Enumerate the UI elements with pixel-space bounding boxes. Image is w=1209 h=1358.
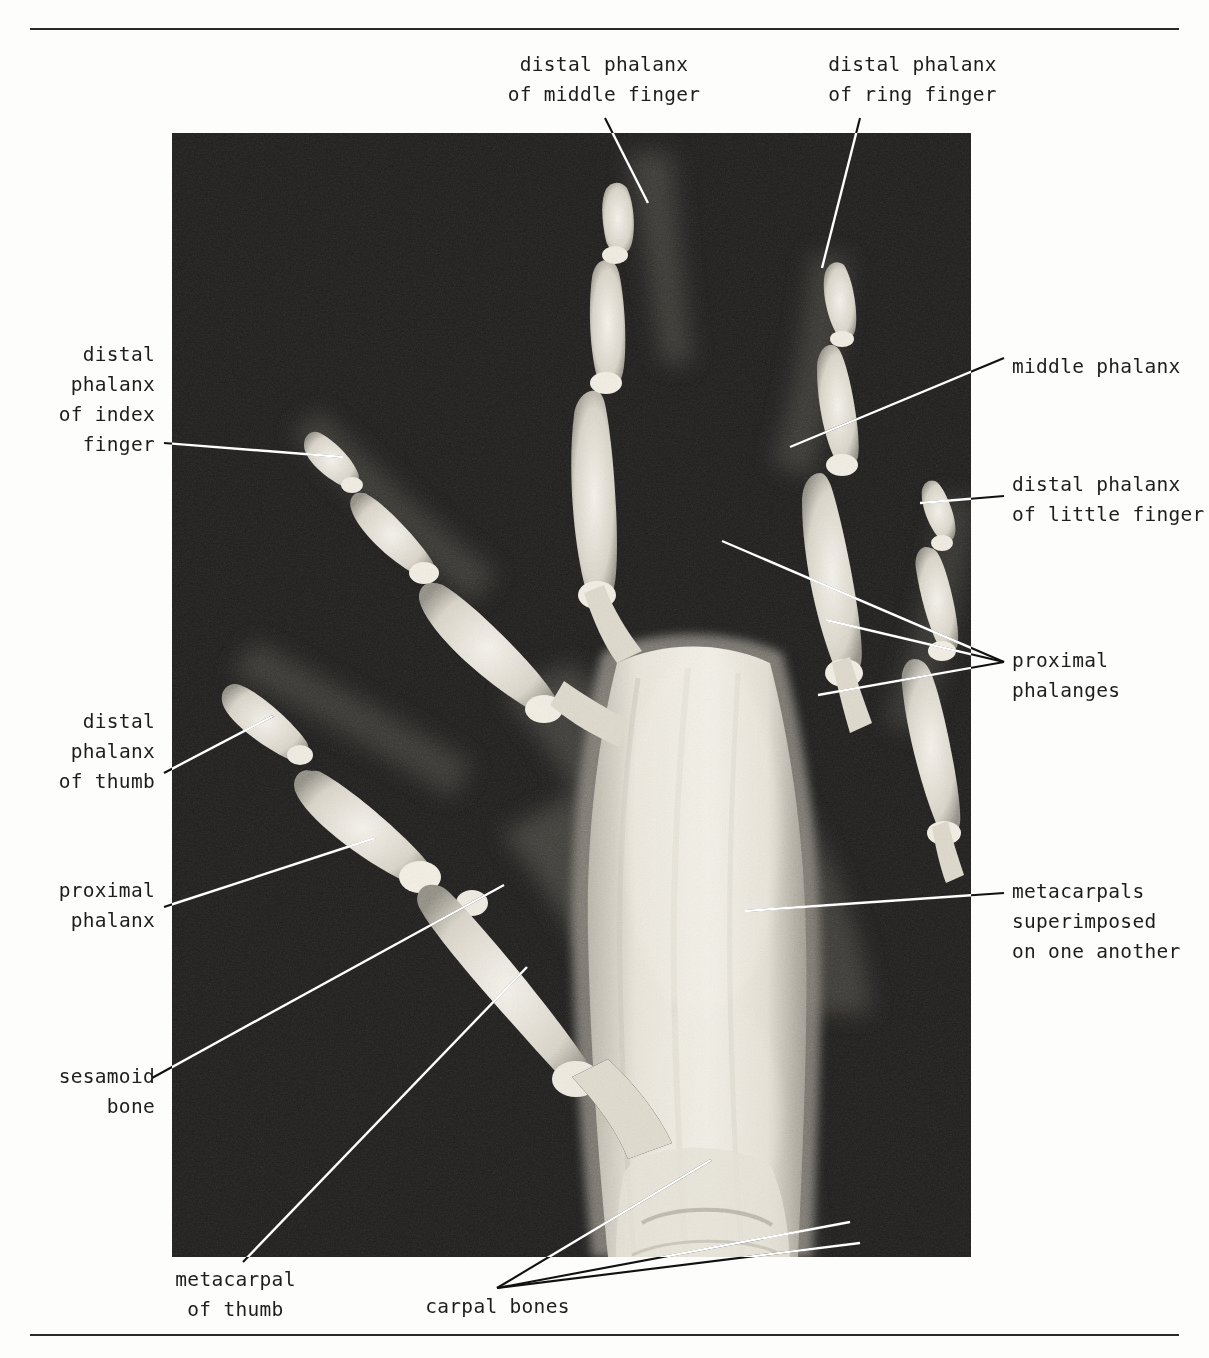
label-metacarpal-of-thumb: metacarpal of thumb [128,1265,343,1325]
label-distal-phalanx-index-finger: distal phalanx of index finger [30,340,155,460]
label-distal-phalanx-ring-finger: distal phalanx of ring finger [805,50,1020,110]
label-distal-phalanx-thumb: distal phalanx of thumb [30,707,155,797]
top-rule [30,28,1179,30]
label-metacarpals-superimposed: metacarpals superimposed on one another [1012,877,1209,967]
xray-image [172,133,971,1257]
label-middle-phalanx: middle phalanx [1012,352,1202,382]
label-proximal-phalanx: proximal phalanx [30,876,155,936]
figure-page: distal phalanx of middle fingerdistal ph… [0,0,1209,1358]
label-distal-phalanx-middle-finger: distal phalanx of middle finger [489,50,719,110]
label-carpal-bones: carpal bones [395,1292,600,1322]
label-proximal-phalanges: proximal phalanges [1012,646,1157,706]
bottom-rule [30,1334,1179,1336]
xray-radiograph-svg [172,133,971,1257]
label-sesamoid-bone: sesamoid bone [30,1062,155,1122]
label-distal-phalanx-little-finger: distal phalanx of little finger [1012,470,1207,530]
